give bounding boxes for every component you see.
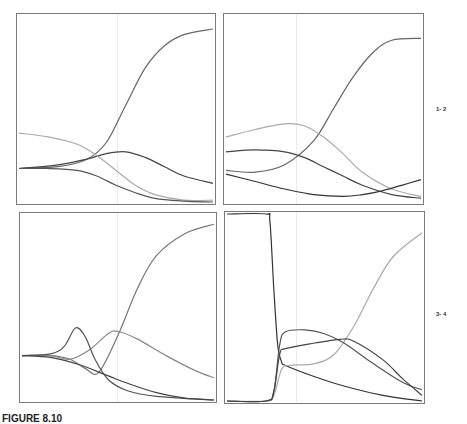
row-label-1-2: 1- 2 (436, 106, 446, 112)
chart-panel-4 (224, 211, 425, 404)
chart-panel-1 (16, 13, 216, 205)
series-line-falling-light (19, 133, 213, 200)
row-label-3-4: 3- 4 (436, 311, 446, 317)
chart-svg-3 (20, 213, 216, 402)
series-line-step-down (227, 213, 422, 401)
chart-svg-4 (225, 212, 424, 403)
chart-panel-3 (19, 212, 217, 403)
series-line-rising (22, 224, 214, 374)
series-line-hump-lower (227, 339, 422, 402)
chart-svg-1 (17, 14, 215, 204)
series-line-dip (226, 174, 421, 196)
series-line-hump-upper (227, 330, 422, 402)
series-line-middle (226, 150, 421, 198)
chart-panel-2 (223, 13, 424, 205)
series-line-sharp-peak (22, 328, 214, 400)
series-line-falling (22, 356, 214, 400)
chart-svg-2 (224, 14, 423, 204)
figure-caption: FIGURE 8.10 (2, 413, 62, 424)
series-line-hump-light (226, 124, 421, 197)
series-line-rising (19, 29, 213, 169)
series-line-falling-dark (19, 168, 213, 202)
series-line-rising (226, 38, 421, 172)
